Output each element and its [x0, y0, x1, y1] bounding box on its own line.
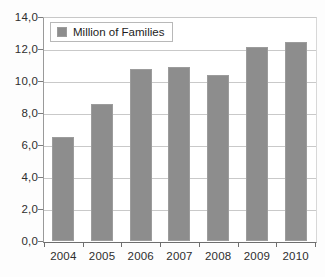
bar[interactable] — [285, 42, 307, 241]
y-axis-tick-mark — [38, 241, 43, 242]
x-axis-tick-mark — [315, 242, 316, 247]
y-axis-tick-label: 0,0 — [2, 235, 38, 247]
y-axis-tick-label: 6,0 — [2, 139, 38, 151]
chart-legend: Million of Families — [50, 22, 173, 42]
bars-layer — [44, 18, 315, 241]
bar[interactable] — [52, 137, 74, 241]
y-axis-tick-mark — [38, 17, 43, 18]
x-axis-tick-label: 2010 — [273, 250, 319, 262]
bar[interactable] — [207, 75, 229, 241]
y-axis-tick-label: 4,0 — [2, 171, 38, 183]
y-axis-tick-label: 10,0 — [2, 75, 38, 87]
x-axis-tick-mark — [160, 242, 161, 247]
bar-slot — [238, 18, 277, 241]
y-axis-tick-mark — [38, 113, 43, 114]
x-axis-tick-mark — [199, 242, 200, 247]
x-axis-tick-mark — [276, 242, 277, 247]
x-axis-tick-mark — [121, 242, 122, 247]
bar-slot — [44, 18, 83, 241]
y-axis-tick-mark — [38, 49, 43, 50]
y-axis-tick-label: 8,0 — [2, 107, 38, 119]
x-axis-tick-mark — [44, 242, 45, 247]
y-axis-tick-label: 14,0 — [2, 11, 38, 23]
y-axis-tick-mark — [38, 209, 43, 210]
y-axis-tick-mark — [38, 177, 43, 178]
y-axis-tick-label: 12,0 — [2, 43, 38, 55]
bar[interactable] — [168, 67, 190, 241]
bar-slot — [83, 18, 122, 241]
bar-chart: 0,02,04,06,08,010,012,014,0 200420052006… — [0, 0, 325, 277]
y-axis-tick-label: 2,0 — [2, 203, 38, 215]
bar[interactable] — [130, 69, 152, 241]
legend-label: Million of Families — [73, 26, 164, 38]
bar[interactable] — [246, 47, 268, 241]
bar-slot — [199, 18, 238, 241]
legend-swatch-icon — [57, 27, 67, 37]
bar-slot — [276, 18, 315, 241]
bar-slot — [121, 18, 160, 241]
y-axis-tick-mark — [38, 145, 43, 146]
x-axis-tick-mark — [238, 242, 239, 247]
y-axis-tick-mark — [38, 81, 43, 82]
x-axis-tick-mark — [83, 242, 84, 247]
bar-slot — [160, 18, 199, 241]
bar[interactable] — [91, 104, 113, 241]
